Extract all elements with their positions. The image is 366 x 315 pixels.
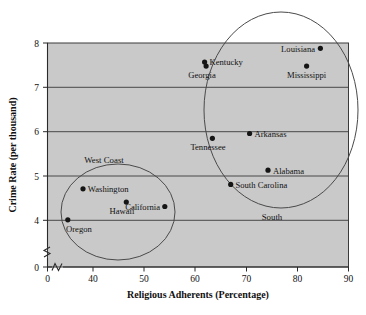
point-label-louisiana: Louisiana xyxy=(281,44,315,54)
scatter-plot-figure: 8 7 6 5 4 0 0 40 50 60 70 80 xyxy=(0,0,366,315)
point-label-south-carolina: South Carolina xyxy=(236,180,288,190)
x-tick-label-40: 40 xyxy=(88,274,98,284)
y-tick-label-8: 8 xyxy=(34,39,39,49)
y-tick-labels: 8 7 6 5 4 0 xyxy=(34,39,39,273)
point-tennessee[interactable] xyxy=(210,136,215,141)
cluster-label-south: South xyxy=(262,212,283,222)
x-tick-label-90: 90 xyxy=(344,274,354,284)
x-tick-label-70: 70 xyxy=(242,274,252,284)
x-tick-label-60: 60 xyxy=(190,274,200,284)
cluster-label-west-coast: West Coast xyxy=(84,155,124,165)
point-south-carolina[interactable] xyxy=(228,182,233,187)
point-mississippi[interactable] xyxy=(304,64,309,69)
point-label-oregon: Oregon xyxy=(66,224,92,234)
point-label-mississippi: Mississippi xyxy=(287,70,327,80)
y-tick-label-7: 7 xyxy=(34,83,39,93)
point-washington[interactable] xyxy=(80,186,85,191)
point-label-washington: Washington xyxy=(88,184,130,194)
point-alabama[interactable] xyxy=(265,168,270,173)
y-tick-label-0: 0 xyxy=(34,263,39,273)
point-label-alabama: Alabama xyxy=(273,166,304,176)
x-tick-labels: 0 40 50 60 70 80 90 xyxy=(45,274,353,284)
point-label-california: California xyxy=(125,202,160,212)
point-label-arkansas: Arkansas xyxy=(255,129,288,139)
point-california[interactable] xyxy=(162,204,167,209)
point-arkansas[interactable] xyxy=(247,131,252,136)
x-tick-label-50: 50 xyxy=(139,274,149,284)
chart-canvas: 8 7 6 5 4 0 0 40 50 60 70 80 xyxy=(0,0,366,315)
y-tick-label-6: 6 xyxy=(34,127,39,137)
point-label-tennessee: Tennessee xyxy=(190,142,225,152)
x-tick-label-0: 0 xyxy=(45,274,50,284)
x-axis-title: Religious Adherents (Percentage) xyxy=(127,289,269,301)
point-louisiana[interactable] xyxy=(318,46,323,51)
point-label-kentucky: Kentucky xyxy=(210,57,244,67)
y-axis-title: Crime Rate (per thousand) xyxy=(7,97,19,212)
point-label-georgia: Georgia xyxy=(188,70,216,80)
y-tick-label-5: 5 xyxy=(34,172,39,182)
y-tick-label-4: 4 xyxy=(34,216,39,226)
point-georgia[interactable] xyxy=(204,64,209,69)
x-tick-label-80: 80 xyxy=(293,274,303,284)
point-oregon[interactable] xyxy=(65,217,70,222)
